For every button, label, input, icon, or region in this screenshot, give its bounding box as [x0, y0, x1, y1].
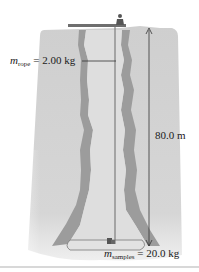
samples-mass-subscript: samples: [112, 253, 135, 261]
rope-mass-label: mrope = 2.00 kg: [10, 55, 75, 68]
rope-mass-equals: =: [33, 54, 39, 66]
samples-mass-symbol: m: [104, 247, 112, 259]
mine-shaft-diagram: mrope = 2.00 kg 80.0 m msamples = 20.0 k…: [0, 0, 199, 272]
samples-mass-value: 20.0 kg: [146, 247, 179, 259]
person-at-surface-icon: [116, 14, 124, 25]
samples-mass-label: msamples = 20.0 kg: [104, 248, 179, 261]
rope-mass-value: 2.00 kg: [42, 54, 75, 66]
shaft-depth-label: 80.0 m: [155, 130, 186, 141]
rope-mass-symbol: m: [10, 54, 18, 66]
rope-mass-subscript: rope: [18, 60, 30, 68]
samples-mass-equals: =: [137, 247, 143, 259]
shaft-depth-value: 80.0 m: [155, 129, 186, 141]
bottom-divider: [0, 266, 199, 268]
